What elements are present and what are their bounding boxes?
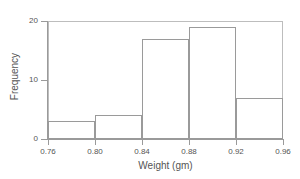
chart-title (0, 0, 300, 2)
bar-series (48, 21, 283, 139)
y-axis-tick-label: 10 (14, 76, 38, 84)
histogram-figure: Frequency 01020 0.760.800.840.880.920.96… (0, 0, 300, 179)
x-axis-tick-label: 0.80 (75, 147, 115, 156)
bar (189, 27, 236, 139)
y-axis-line (47, 21, 48, 140)
x-axis-tick-label: 0.96 (263, 147, 300, 156)
x-axis-tick-label: 0.92 (216, 147, 256, 156)
x-axis-tick (189, 140, 190, 145)
x-axis-tick-label: 0.76 (28, 147, 68, 156)
bar (142, 39, 189, 139)
y-axis-tick-label: 20 (14, 17, 38, 25)
x-axis-tick (283, 140, 284, 145)
x-axis-tick (236, 140, 237, 145)
bar (95, 115, 142, 139)
y-axis-tick (41, 139, 47, 140)
plot-area (48, 21, 283, 139)
x-axis-title: Weight (gm) (48, 160, 283, 172)
y-axis-tick (41, 80, 47, 81)
bar (48, 121, 95, 139)
x-axis-tick (95, 140, 96, 145)
x-axis-line (47, 139, 284, 140)
x-axis-tick (48, 140, 49, 145)
y-axis-tick-label: 0 (14, 135, 38, 143)
x-axis-tick-label: 0.84 (122, 147, 162, 156)
x-axis-tick-label: 0.88 (169, 147, 209, 156)
y-axis-tick (41, 21, 47, 22)
bar (236, 98, 283, 139)
x-axis-tick (142, 140, 143, 145)
